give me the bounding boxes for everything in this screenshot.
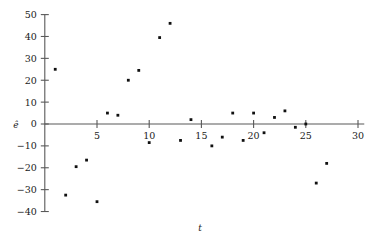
x-tick-label: 5	[94, 130, 100, 141]
data-point	[127, 79, 130, 82]
data-point	[294, 126, 297, 129]
x-axis-label: t	[198, 223, 202, 233]
data-point	[54, 68, 57, 71]
y-tick-label: −20	[17, 162, 37, 173]
data-point	[106, 112, 109, 115]
residual-scatter-figure: 50403020100−10−20−30−40 51015202530 ê t	[0, 0, 375, 236]
data-point	[64, 194, 67, 197]
data-point	[190, 118, 193, 121]
y-tick-label: 10	[25, 97, 37, 108]
x-tick-label: 15	[195, 130, 207, 141]
data-point	[75, 165, 78, 168]
data-points-layer	[54, 22, 328, 203]
data-point	[284, 109, 287, 112]
data-point	[273, 116, 276, 119]
data-point	[304, 123, 307, 126]
y-tick-label: 50	[25, 9, 37, 20]
y-tick-label: 40	[25, 31, 37, 42]
y-tick-label: 30	[25, 53, 37, 64]
y-tick-label: −40	[17, 206, 37, 217]
data-point	[85, 159, 88, 162]
data-point	[242, 139, 245, 142]
data-point	[325, 162, 328, 165]
y-tick-label: 20	[25, 75, 37, 86]
data-point	[315, 182, 318, 185]
y-axis: 50403020100−10−20−30−40	[17, 9, 49, 217]
data-point	[252, 112, 255, 115]
x-axis: 51015202530	[45, 120, 364, 141]
scatter-plot-canvas: 50403020100−10−20−30−40 51015202530 ê t	[0, 0, 375, 236]
x-tick-label: 30	[352, 130, 364, 141]
data-point	[231, 112, 234, 115]
y-axis-label: ê	[13, 120, 18, 130]
data-point	[210, 144, 213, 147]
data-point	[221, 136, 224, 139]
x-tick-label: 25	[300, 130, 312, 141]
x-tick-label: 20	[248, 130, 260, 141]
data-point	[148, 141, 151, 144]
y-tick-label: −30	[17, 184, 37, 195]
y-tick-label: −10	[17, 140, 37, 151]
data-point	[169, 22, 172, 25]
data-point	[179, 139, 182, 142]
data-point	[137, 69, 140, 72]
data-point	[263, 131, 266, 134]
data-point	[116, 114, 119, 117]
data-point	[158, 36, 161, 39]
data-point	[96, 200, 99, 203]
y-tick-label: 0	[31, 118, 37, 129]
x-tick-label: 10	[143, 130, 155, 141]
